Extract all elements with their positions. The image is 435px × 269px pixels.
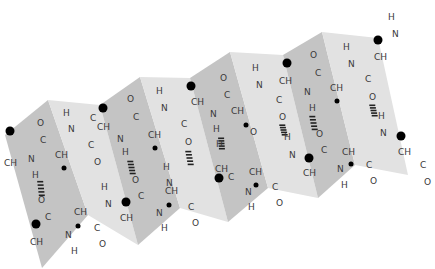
- atom-label: C: [88, 140, 94, 150]
- atom-label: H: [161, 223, 168, 233]
- side-chain-icon: [397, 132, 406, 141]
- atom-label: C: [315, 68, 321, 78]
- atom-label: O: [250, 127, 257, 137]
- atom-label: N: [156, 208, 163, 218]
- atom-label: C: [366, 160, 372, 170]
- atom-label: H: [248, 202, 255, 212]
- atom-label: CH: [97, 122, 110, 132]
- atom-label: O: [316, 129, 323, 139]
- atom-label: CH: [215, 164, 228, 174]
- atom-label: N: [105, 199, 112, 209]
- atom-label: C: [90, 113, 96, 123]
- atom-label: O: [220, 73, 227, 83]
- atom-label: N: [304, 87, 311, 97]
- atom-label: H: [213, 124, 220, 134]
- atom-label: CH: [120, 213, 133, 223]
- atom-label: CH: [303, 168, 316, 178]
- atom-label: CH: [342, 147, 355, 157]
- atom-label: H: [63, 108, 70, 118]
- atom-label: N: [68, 124, 75, 134]
- side-chain-icon: [283, 59, 292, 68]
- atom-label: N: [117, 134, 124, 144]
- side-chain-icon: [244, 123, 249, 128]
- atom-label: N: [28, 154, 35, 164]
- atom-label: CH: [148, 130, 161, 140]
- atom-label: C: [133, 112, 139, 122]
- atom-label: H: [122, 147, 129, 157]
- atom-label: CH: [374, 52, 387, 62]
- atom-label: N: [245, 187, 252, 197]
- side-chain-icon: [99, 104, 108, 113]
- atom-label: N: [348, 59, 355, 69]
- atom-label: C: [420, 160, 426, 170]
- atom-label: C: [272, 182, 278, 192]
- atom-label: H: [309, 103, 316, 113]
- atom-label: CH: [231, 106, 244, 116]
- atom-label: N: [256, 80, 263, 90]
- atom-label: O: [279, 112, 286, 122]
- side-chain-icon: [6, 127, 15, 136]
- atom-label: N: [337, 164, 344, 174]
- atom-label: C: [224, 90, 230, 100]
- atom-label: O: [38, 195, 45, 205]
- atom-label: C: [321, 145, 327, 155]
- atom-label: H: [32, 170, 39, 180]
- atom-label: O: [192, 218, 199, 228]
- atom-label: C: [181, 119, 187, 129]
- atom-label: CH: [249, 167, 262, 177]
- atom-label: C: [228, 172, 234, 182]
- pleated-sheet-svg: CHOCNHCHHNCOCHCOCNCHHNCOHCHHNCOCHOCNCHHO…: [0, 0, 435, 269]
- side-chain-icon: [32, 220, 41, 229]
- atom-label: O: [37, 118, 44, 128]
- atom-label: CH: [30, 237, 43, 247]
- atom-label: C: [276, 95, 282, 105]
- atom-label: H: [101, 182, 108, 192]
- atom-label: C: [138, 191, 144, 201]
- atom-label: O: [310, 50, 317, 60]
- atom-label: N: [380, 128, 387, 138]
- atom-label: C: [94, 223, 100, 233]
- atom-label: H: [343, 42, 350, 52]
- side-chain-icon: [122, 198, 131, 207]
- atom-label: O: [99, 239, 106, 249]
- atom-label: C: [40, 135, 46, 145]
- atom-label: O: [185, 137, 192, 147]
- atom-label: N: [289, 150, 296, 160]
- atom-label: CH: [4, 158, 17, 168]
- atom-label: CH: [398, 147, 411, 157]
- side-chain-icon: [167, 203, 172, 208]
- atom-label: H: [388, 12, 395, 22]
- atom-label: H: [284, 132, 291, 142]
- atom-label: CH: [330, 83, 343, 93]
- atom-label: H: [163, 162, 170, 172]
- atom-label: O: [276, 198, 283, 208]
- side-chain-icon: [305, 154, 314, 163]
- atom-label: O: [369, 92, 376, 102]
- atom-label: N: [161, 103, 168, 113]
- atom-label: H: [71, 246, 78, 256]
- atom-label: O: [127, 94, 134, 104]
- atom-label: N: [166, 178, 173, 188]
- side-chain-icon: [254, 183, 259, 188]
- atom-label: CH: [279, 76, 292, 86]
- atom-label: O: [424, 177, 431, 187]
- atom-label: H: [378, 111, 385, 121]
- atom-label: H: [252, 63, 259, 73]
- atom-label: O: [94, 157, 101, 167]
- side-chain-icon: [374, 36, 383, 45]
- side-chain-icon: [76, 224, 81, 229]
- atom-label: O: [132, 175, 139, 185]
- atom-label: N: [65, 230, 72, 240]
- atom-label: H: [341, 180, 348, 190]
- side-chain-icon: [187, 82, 196, 91]
- atom-label: C: [365, 74, 371, 84]
- atom-label: C: [45, 212, 51, 222]
- side-chain-icon: [62, 166, 67, 171]
- side-chain-icon: [349, 162, 354, 167]
- atom-label: N: [210, 109, 217, 119]
- atom-label: H: [156, 86, 163, 96]
- atom-label: CH: [55, 150, 68, 160]
- side-chain-icon: [153, 146, 158, 151]
- side-chain-icon: [335, 99, 340, 104]
- atom-label: H: [216, 139, 223, 149]
